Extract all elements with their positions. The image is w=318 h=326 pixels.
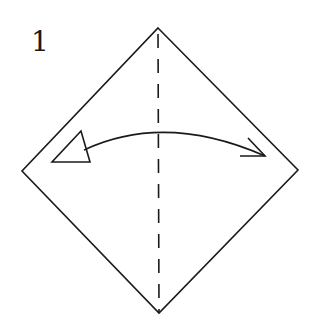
valley-fold-line xyxy=(158,30,159,312)
origami-diagram xyxy=(0,0,318,326)
paper-square xyxy=(22,28,298,313)
arrow-connector xyxy=(84,149,87,150)
